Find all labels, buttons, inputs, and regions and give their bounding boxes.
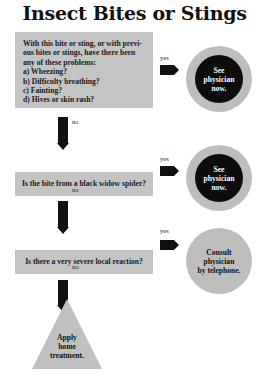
outcome-line: now.	[204, 84, 235, 93]
question-box-3: Is there a very severe local reaction?	[15, 250, 153, 274]
right-arrow-icon	[160, 166, 174, 176]
outcome-line: now.	[204, 183, 235, 192]
yes-label: yes	[160, 54, 169, 61]
outcome-see-physician-2: See physician now.	[186, 145, 252, 211]
question-line: c) Fainting?	[23, 86, 147, 95]
question-box-1: With this bite or sting, or with previ- …	[15, 32, 153, 108]
question-line: any of these problems:	[23, 58, 147, 67]
outcome-line: See	[204, 165, 235, 174]
yes-label: yes	[160, 155, 169, 162]
outcome-line: physician	[204, 75, 235, 84]
page-title: Insect Bites or Stings	[0, 2, 269, 24]
question-box-2: Is the bite from a black widow spider?	[15, 172, 153, 196]
question-line: a) Wheezing?	[23, 67, 147, 76]
question-line: d) Hives or skin rash?	[23, 95, 147, 104]
yes-label: yes	[160, 227, 169, 234]
no-label: no	[72, 263, 79, 270]
outcome-inner: See physician now.	[195, 154, 243, 202]
final-line: treatment.	[32, 351, 102, 360]
outcome-line: Consult	[197, 248, 240, 257]
down-arrow-icon	[58, 201, 68, 228]
outcome-inner: See physician now.	[195, 55, 243, 103]
right-arrow-icon	[160, 65, 174, 75]
outcome-line: by telephone.	[197, 266, 240, 275]
outcome-line: See	[204, 66, 235, 75]
outcome-line: physician	[197, 257, 240, 266]
down-arrow-icon	[58, 117, 68, 144]
final-line: Apply	[32, 333, 102, 342]
right-arrow-icon	[160, 240, 174, 250]
no-label: no	[72, 118, 79, 125]
outcome-line: physician	[204, 174, 235, 183]
final-home-treatment: Apply home treatment.	[32, 333, 102, 360]
no-label: no	[72, 186, 79, 193]
question-line: With this bite or sting, or with previ-	[23, 39, 147, 48]
final-line: home	[32, 342, 102, 351]
outcome-consult-by-telephone: Consult physician by telephone.	[186, 228, 252, 294]
outcome-see-physician-1: See physician now.	[186, 46, 252, 112]
question-line: ous bites or stings, have there been	[23, 48, 147, 57]
question-line: b) Difficulty breathing?	[23, 77, 147, 86]
